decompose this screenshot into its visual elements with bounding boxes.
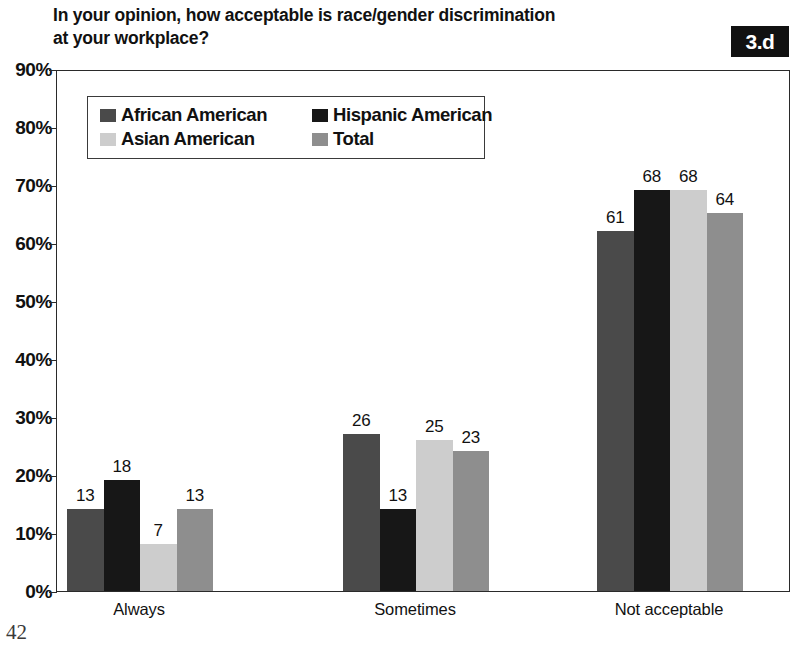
page-number: 42	[6, 620, 27, 645]
legend-swatch-icon	[312, 109, 328, 122]
bar[interactable]: 7	[140, 544, 177, 591]
bar-group: 61686864	[597, 71, 743, 591]
bar-value-label: 68	[642, 167, 661, 187]
legend-item[interactable]: Hispanic American	[312, 104, 492, 126]
bar-value-label: 64	[715, 190, 734, 210]
legend-item[interactable]: Total	[312, 128, 492, 150]
bar-value-label: 13	[76, 486, 95, 506]
legend-label: African American	[121, 104, 267, 126]
page-title: In your opinion, how acceptable is race/…	[53, 4, 693, 50]
x-axis-labels: AlwaysSometimesNot acceptable	[56, 600, 790, 630]
legend-label: Asian American	[121, 128, 255, 150]
x-axis-category-label: Not acceptable	[615, 600, 724, 619]
legend-swatch-icon	[100, 133, 116, 146]
legend-swatch-icon	[312, 133, 328, 146]
bar-value-label: 68	[679, 167, 698, 187]
x-axis-category-label: Always	[113, 600, 165, 619]
bar[interactable]: 68	[634, 190, 671, 591]
bar[interactable]: 18	[104, 480, 141, 591]
bar[interactable]: 64	[707, 213, 744, 591]
legend-swatch-icon	[100, 109, 116, 122]
bar-value-label: 18	[112, 457, 131, 477]
bar[interactable]: 61	[597, 231, 634, 591]
bar[interactable]: 23	[453, 451, 490, 591]
bar[interactable]: 13	[177, 509, 214, 591]
legend-item[interactable]: African American	[100, 104, 312, 126]
chart-legend: African AmericanHispanic AmericanAsian A…	[87, 96, 485, 159]
bar-value-label: 23	[461, 428, 480, 448]
bar-value-label: 13	[388, 486, 407, 506]
bar-value-label: 25	[425, 417, 444, 437]
legend-label: Hispanic American	[333, 104, 492, 126]
bar-value-label: 61	[606, 208, 625, 228]
legend-label: Total	[333, 128, 374, 150]
legend-item[interactable]: Asian American	[100, 128, 312, 150]
bar[interactable]: 25	[416, 440, 453, 591]
x-axis-category-label: Sometimes	[374, 600, 456, 619]
bar[interactable]: 13	[380, 509, 417, 591]
bar-value-label: 7	[154, 521, 163, 541]
bar-value-label: 13	[185, 486, 204, 506]
bar[interactable]: 26	[343, 434, 380, 591]
bar-value-label: 26	[352, 411, 371, 431]
figure-badge: 3.d	[731, 26, 789, 57]
bar[interactable]: 13	[67, 509, 104, 591]
y-axis-tick-mark	[49, 592, 57, 593]
y-axis-tick-marks	[0, 70, 60, 592]
bar[interactable]: 68	[670, 190, 707, 591]
